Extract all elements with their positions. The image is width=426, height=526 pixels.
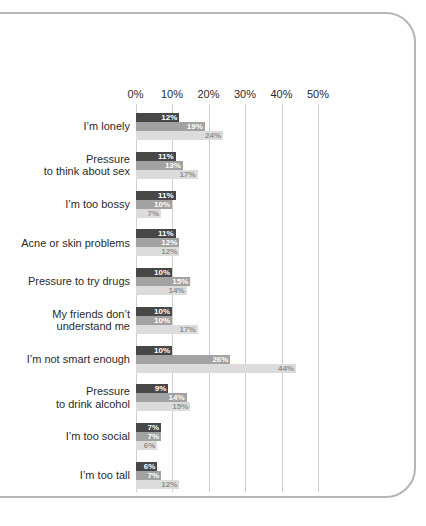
category-label: I’m too tall bbox=[0, 462, 130, 489]
bar-value-label: 10% bbox=[154, 200, 170, 209]
category-label: Acne or skin problems bbox=[0, 229, 130, 256]
category-label: My friends don’t understand me bbox=[0, 307, 130, 334]
category-label: I’m not smart enough bbox=[0, 346, 130, 373]
category-label: I’m lonely bbox=[0, 113, 130, 140]
bar-value-label: 11% bbox=[158, 191, 174, 200]
category-label: Pressure to think about sex bbox=[0, 152, 130, 179]
bar-value-label: 7% bbox=[147, 209, 159, 218]
bar-value-label: 14% bbox=[169, 286, 185, 295]
category-label: Pressure to drink alcohol bbox=[0, 384, 130, 411]
bar-value-label: 11% bbox=[158, 229, 174, 238]
bar-value-label: 10% bbox=[154, 268, 170, 277]
bar-value-label: 10% bbox=[154, 316, 170, 325]
bar-value-label: 6% bbox=[144, 441, 156, 450]
bar-value-label: 6% bbox=[144, 462, 156, 471]
bar-value-label: 10% bbox=[154, 346, 170, 355]
bar-value-label: 11% bbox=[158, 152, 174, 161]
bar-value-label: 14% bbox=[169, 393, 185, 402]
bar-value-label: 7% bbox=[147, 432, 159, 441]
bar-value-label: 10% bbox=[154, 307, 170, 316]
bar-value-label: 7% bbox=[147, 471, 159, 480]
bar-value-label: 15% bbox=[172, 402, 188, 411]
gridline bbox=[209, 104, 210, 492]
bar-value-label: 9% bbox=[155, 384, 167, 393]
gridline bbox=[282, 104, 283, 492]
bar-value-label: 44% bbox=[278, 364, 294, 373]
bar-value-label: 17% bbox=[180, 170, 196, 179]
bar-value-label: 13% bbox=[165, 161, 181, 170]
x-axis-tick-label: 50% bbox=[296, 88, 340, 100]
bar-value-label: 12% bbox=[161, 238, 177, 247]
bar-value-label: 7% bbox=[147, 423, 159, 432]
category-label: I’m too bossy bbox=[0, 191, 130, 218]
bar-value-label: 15% bbox=[172, 277, 188, 286]
page: 0%10%20%30%40%50% I’m lonelyPressure to … bbox=[0, 0, 426, 526]
bar-value-label: 17% bbox=[180, 325, 196, 334]
bar-value-label: 19% bbox=[187, 122, 203, 131]
category-label: I’m too social bbox=[0, 423, 130, 450]
gridline bbox=[318, 104, 319, 492]
category-label: Pressure to try drugs bbox=[0, 268, 130, 295]
bar-value-label: 24% bbox=[205, 131, 221, 140]
bar-chart: 0%10%20%30%40%50% I’m lonelyPressure to … bbox=[0, 0, 426, 526]
bar bbox=[136, 364, 297, 373]
bar-value-label: 12% bbox=[161, 113, 177, 122]
bar-value-label: 26% bbox=[212, 355, 228, 364]
gridline bbox=[245, 104, 246, 492]
bar-value-label: 12% bbox=[161, 480, 177, 489]
bar-value-label: 12% bbox=[161, 247, 177, 256]
